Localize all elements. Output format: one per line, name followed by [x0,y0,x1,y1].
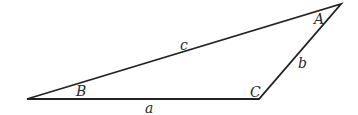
angle-label-b: B [75,83,86,99]
triangle-diagram: A B C a b c [0,0,358,115]
side-label-c: c [180,37,188,53]
side-label-b: b [298,55,307,71]
angle-label-a: A [312,11,324,27]
side-label-a: a [145,100,153,115]
angle-label-c: C [250,84,261,100]
